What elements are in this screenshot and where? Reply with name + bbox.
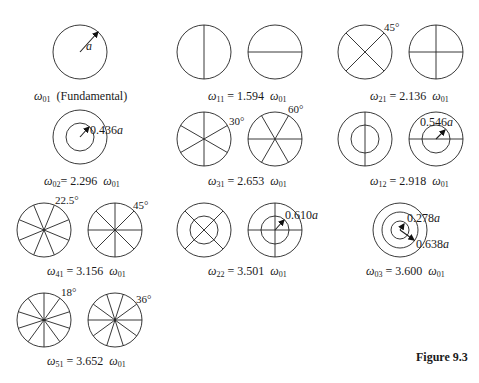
svg-text:45°: 45°: [384, 21, 399, 33]
caption-mode-02: ω02= 2.296 ω01: [44, 174, 120, 189]
svg-text:a: a: [86, 39, 92, 53]
mode-12: 0.546a: [338, 112, 463, 166]
svg-text:0.436a: 0.436a: [90, 123, 123, 137]
svg-text:0.278a: 0.278a: [407, 211, 440, 225]
membrane-modes-diagram: a 45° 0.436a 30° 60°: [0, 0, 479, 383]
caption-mode-03: ω03 = 3.600 ω01: [366, 264, 445, 279]
svg-text:18°: 18°: [61, 286, 76, 298]
caption-mode-21: ω21 = 2.136 ω01: [370, 89, 449, 104]
caption-mode-41: ω41 = 3.156 ω01: [47, 264, 126, 279]
svg-text:0.546a: 0.546a: [420, 115, 453, 129]
caption-mode-01: ω01 (Fundamental): [34, 89, 127, 104]
caption-mode-11: ω11 = 1.594 ω01: [208, 89, 286, 104]
svg-text:30°: 30°: [229, 115, 244, 127]
mode-51: 18° 36°: [17, 286, 151, 347]
caption-mode-51: ω51 = 3.652 ω01: [47, 354, 126, 369]
svg-text:22.5°: 22.5°: [55, 194, 79, 206]
mode-22: 0.610a: [177, 203, 318, 257]
svg-text:60°: 60°: [288, 103, 303, 115]
caption-mode-31: ω31 = 2.653 ω01: [208, 174, 287, 189]
svg-text:45°: 45°: [133, 199, 148, 211]
caption-mode-12: ω12 = 2.918 ω01: [370, 174, 449, 189]
mode-01-fundamental: a: [53, 25, 107, 79]
mode-02: 0.436a: [53, 110, 123, 164]
mode-03: 0.278a 0.638a: [373, 203, 449, 257]
svg-text:36°: 36°: [136, 293, 151, 305]
mode-31: 30° 60°: [177, 103, 303, 166]
mode-41: 22.5° 45°: [17, 194, 148, 257]
svg-text:0.610a: 0.610a: [285, 208, 318, 222]
svg-text:0.638a: 0.638a: [416, 237, 449, 251]
figure-label: Figure 9.3: [416, 350, 468, 365]
mode-21: 45°: [338, 21, 463, 79]
caption-mode-22: ω22 = 3.501 ω01: [208, 264, 287, 279]
mode-11: [177, 25, 302, 79]
